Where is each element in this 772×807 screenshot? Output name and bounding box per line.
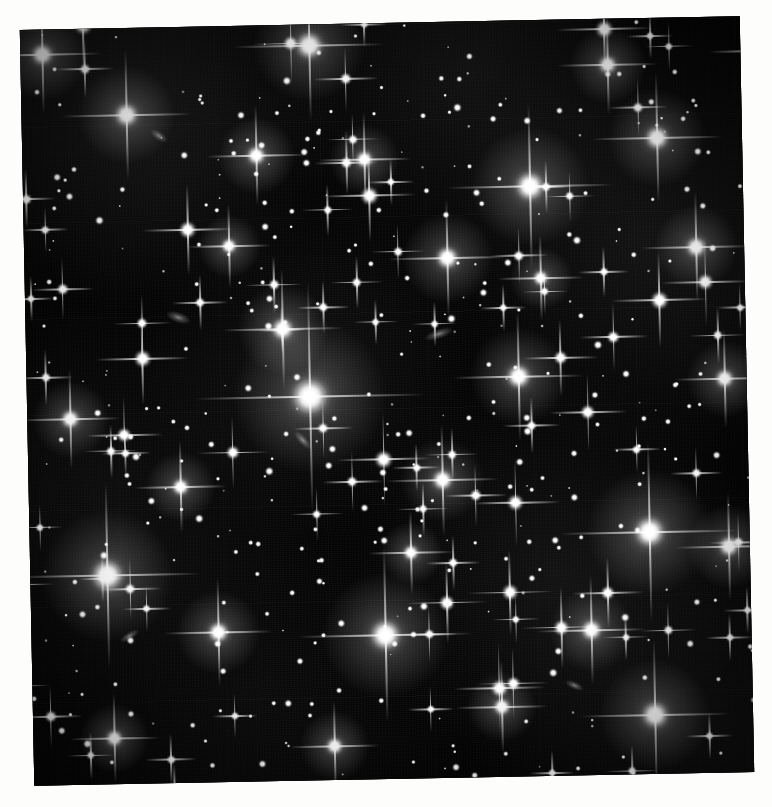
scan-stripe-overlay bbox=[20, 16, 754, 786]
star bbox=[20, 679, 27, 693]
star bbox=[749, 131, 754, 141]
sky-field bbox=[20, 16, 754, 786]
star bbox=[744, 41, 755, 61]
star bbox=[20, 305, 21, 311]
star bbox=[79, 19, 83, 23]
star bbox=[22, 741, 31, 750]
star bbox=[77, 785, 81, 786]
star bbox=[695, 775, 705, 785]
screenshot-root bbox=[0, 0, 772, 807]
star bbox=[20, 586, 25, 592]
star bbox=[753, 476, 754, 484]
star bbox=[624, 775, 628, 779]
star bbox=[20, 578, 31, 592]
photographic-plate bbox=[20, 16, 754, 786]
star bbox=[554, 780, 558, 784]
star bbox=[20, 432, 22, 438]
